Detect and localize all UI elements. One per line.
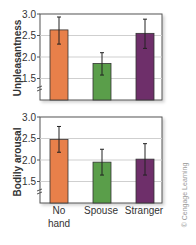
y-tick-label: 3.0	[22, 9, 36, 20]
y-tick-label: 2.5	[22, 133, 36, 144]
top-y-axis-label: Unpleasantness	[12, 19, 23, 96]
bottom-y-axis-label: Bodily arousal	[12, 127, 23, 196]
category-label-spouse: Spouse	[84, 205, 118, 216]
y-tick-label: 2.0	[22, 52, 36, 63]
y-tick-label: 1.5	[22, 176, 36, 187]
category-label-no-hand-line2: hand	[48, 218, 70, 229]
category-label-stranger: Stranger	[125, 205, 164, 216]
category-label-no-hand-line1: No	[53, 205, 66, 216]
y-tick-label: 2.0	[22, 155, 36, 166]
bodily-arousal-chart: 3.02.52.01.5	[22, 112, 162, 204]
unpleasantness-chart: 3.02.52.01.5	[22, 9, 162, 101]
y-tick-label: 1.5	[22, 73, 36, 84]
y-tick-label: 2.5	[22, 30, 36, 41]
figure: 3.02.52.01.5 3.02.52.01.5 Unpleasantness…	[0, 0, 196, 245]
y-tick-label: 3.0	[22, 112, 36, 123]
copyright-credit: © Cengage Learning	[181, 163, 189, 228]
